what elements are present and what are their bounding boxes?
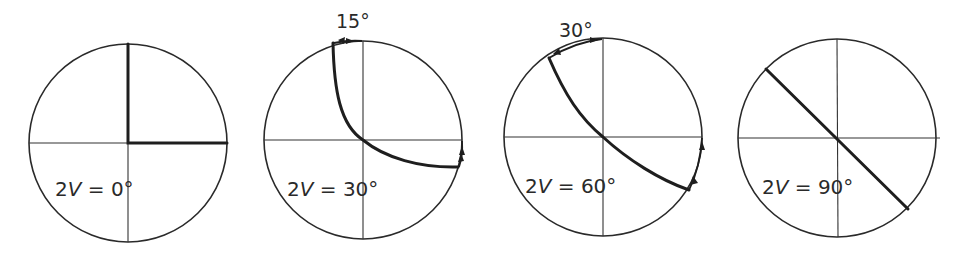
- top-angle-label: 15°: [336, 10, 370, 32]
- optic-angle-diagram: 2V = 0° 15° 2V = 30° 30° 2V = 60°: [0, 0, 960, 255]
- top-angle-label: 30°: [559, 19, 593, 41]
- panel-2v-0: 2V = 0°: [29, 44, 227, 242]
- isogyre-trace: [128, 44, 227, 143]
- panel-2v-90: 2V = 90°: [738, 39, 940, 237]
- panel-label: 2V = 90°: [762, 175, 853, 199]
- isogyre-trace: [549, 58, 689, 190]
- panel-2v-30: 15° 2V = 30°: [264, 10, 465, 239]
- arrowhead-icon: [459, 146, 465, 155]
- panel-label: 2V = 30°: [287, 177, 378, 201]
- panel-2v-60: 30° 2V = 60°: [504, 19, 705, 236]
- arrowhead-icon: [699, 141, 705, 150]
- isogyre-trace: [333, 43, 458, 167]
- panel-label: 2V = 60°: [525, 174, 616, 198]
- arrowhead-icon: [346, 38, 354, 44]
- panel-label: 2V = 0°: [55, 177, 134, 201]
